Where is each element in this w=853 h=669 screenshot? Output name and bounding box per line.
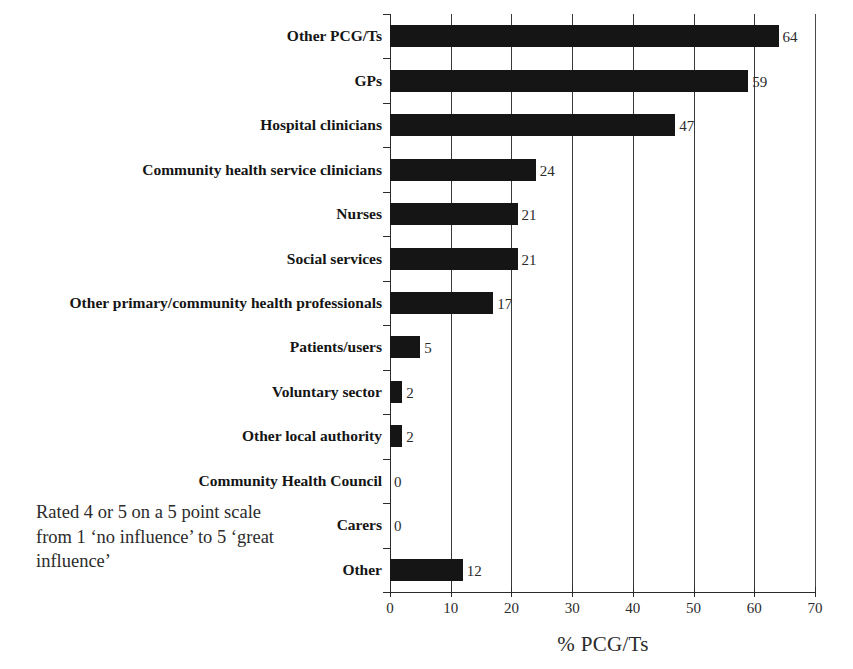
bar xyxy=(390,70,748,92)
x-axis-title: % PCG/Ts xyxy=(390,632,816,657)
bar-value-label: 59 xyxy=(752,75,767,90)
x-tick-40 xyxy=(633,587,634,597)
y-tick-3 xyxy=(383,147,391,148)
bar xyxy=(390,292,493,314)
annotation-line-3: influence’ xyxy=(36,549,366,574)
x-tick-label-40: 40 xyxy=(625,600,640,617)
x-tick-20 xyxy=(511,587,512,597)
gridline-40 xyxy=(633,14,634,592)
annotation-line-1: Rated 4 or 5 on a 5 point scale xyxy=(36,500,366,525)
y-tick-11 xyxy=(383,503,391,504)
category-label: Community health service clinicians xyxy=(142,162,382,178)
y-tick-1 xyxy=(383,58,391,59)
bar-value-label: 64 xyxy=(783,30,798,45)
bar-value-label: 21 xyxy=(522,208,537,223)
category-label: Social services xyxy=(287,251,382,267)
y-tick-8 xyxy=(383,370,391,371)
category-label: Other PCG/Ts xyxy=(287,28,382,44)
bar-value-label: 24 xyxy=(540,164,555,179)
y-tick-0 xyxy=(383,14,391,15)
x-tick-label-0: 0 xyxy=(386,600,394,617)
y-tick-6 xyxy=(383,281,391,282)
category-label: Community Health Council xyxy=(199,473,382,489)
category-label: Hospital clinicians xyxy=(260,117,382,133)
bar xyxy=(390,248,518,270)
y-tick-10 xyxy=(383,459,391,460)
x-tick-30 xyxy=(572,587,573,597)
x-tick-50 xyxy=(694,587,695,597)
category-label: Patients/users xyxy=(290,339,382,355)
bar-value-label: 21 xyxy=(522,253,537,268)
category-label: GPs xyxy=(354,73,382,89)
bar-value-label: 5 xyxy=(424,341,432,356)
gridline-60 xyxy=(754,14,755,592)
y-tick-9 xyxy=(383,414,391,415)
bar xyxy=(390,381,402,403)
x-tick-label-10: 10 xyxy=(443,600,458,617)
x-tick-label-60: 60 xyxy=(747,600,762,617)
chart-annotation: Rated 4 or 5 on a 5 point scale from 1 ‘… xyxy=(36,500,366,574)
bar xyxy=(390,203,518,225)
x-tick-70 xyxy=(815,587,816,597)
bar-value-label: 0 xyxy=(394,475,402,490)
bar xyxy=(390,114,675,136)
x-tick-label-30: 30 xyxy=(565,600,580,617)
bar-value-label: 12 xyxy=(467,564,482,579)
x-tick-60 xyxy=(754,587,755,597)
category-label: Other local authority xyxy=(242,428,382,444)
bar-chart: 010203040506070 Other PCG/TsGPsHospital … xyxy=(0,0,853,669)
category-label: Voluntary sector xyxy=(272,384,382,400)
bar xyxy=(390,25,779,47)
bar-value-label: 17 xyxy=(497,297,512,312)
annotation-line-2: from 1 ‘no influence’ to 5 ‘great xyxy=(36,525,366,550)
bar-value-label: 0 xyxy=(394,519,402,534)
bar-value-label: 2 xyxy=(406,386,414,401)
category-label: Nurses xyxy=(336,206,382,222)
y-tick-2 xyxy=(383,103,391,104)
bar xyxy=(390,425,402,447)
bar xyxy=(390,336,420,358)
bar-value-label: 47 xyxy=(679,119,694,134)
gridline-30 xyxy=(572,14,573,592)
x-axis-line xyxy=(390,592,816,593)
y-tick-13 xyxy=(383,592,391,593)
category-label: Other primary/community health professio… xyxy=(70,295,382,311)
x-tick-label-70: 70 xyxy=(808,600,823,617)
plot-area xyxy=(390,14,815,592)
bar xyxy=(390,159,536,181)
x-tick-label-50: 50 xyxy=(686,600,701,617)
gridline-70 xyxy=(815,14,816,592)
y-tick-7 xyxy=(383,325,391,326)
y-tick-12 xyxy=(383,548,391,549)
gridline-50 xyxy=(694,14,695,592)
y-tick-5 xyxy=(383,236,391,237)
x-tick-10 xyxy=(451,587,452,597)
bar xyxy=(390,559,463,581)
x-tick-label-20: 20 xyxy=(504,600,519,617)
bar-value-label: 2 xyxy=(406,430,414,445)
y-tick-4 xyxy=(383,192,391,193)
